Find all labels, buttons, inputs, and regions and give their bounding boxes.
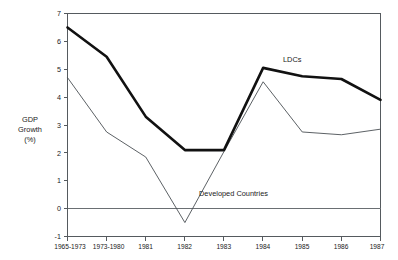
x-tick-label-1965-1973: 1965-1973: [54, 243, 86, 250]
chart-canvas: 7 6 5 4 3 2 1 0 -1 GDP Growth (%): [0, 0, 398, 260]
y-tick-marks: [64, 14, 68, 237]
series-annotation-developed-countries: Developed Countries: [199, 189, 268, 198]
y-axis-title-line-2: Growth: [18, 125, 42, 134]
y-axis-title: GDP Growth (%): [18, 115, 42, 144]
x-tick-label-1984: 1984: [256, 243, 271, 250]
y-tick-label-0: 0: [57, 204, 61, 213]
y-tick-label-7: 7: [57, 9, 61, 18]
x-tick-label-1985: 1985: [295, 243, 310, 250]
y-axis-title-line-1: GDP: [22, 115, 38, 124]
y-tick-label-4: 4: [57, 93, 61, 102]
y-tick-label-5: 5: [57, 65, 61, 74]
x-tick-marks: [68, 237, 381, 241]
plot-axes: [68, 14, 381, 237]
y-tick-label-2: 2: [57, 149, 61, 158]
y-tick-label-1: 1: [57, 176, 61, 185]
y-tick-label-6: 6: [57, 37, 61, 46]
x-tick-label-1986: 1986: [334, 243, 349, 250]
y-tick-label-3: 3: [57, 121, 61, 130]
x-tick-labels: 1965-1973 1973-1980 1981 1982 1983 1984 …: [54, 243, 384, 250]
y-tick-label-neg1: -1: [55, 232, 61, 241]
x-tick-label-1973-1980: 1973-1980: [93, 243, 125, 250]
y-axis-title-line-3: (%): [24, 135, 36, 144]
x-tick-label-1982: 1982: [177, 243, 192, 250]
y-tick-labels: 7 6 5 4 3 2 1 0 -1: [55, 9, 61, 241]
gdp-growth-line-chart: 7 6 5 4 3 2 1 0 -1 GDP Growth (%): [0, 0, 398, 260]
series-annotation-ldcs: LDCs: [283, 55, 302, 64]
series-line-ldcs: [68, 27, 381, 150]
x-tick-label-1983: 1983: [216, 243, 231, 250]
x-tick-label-1981: 1981: [138, 243, 153, 250]
x-tick-label-1987: 1987: [370, 243, 385, 250]
